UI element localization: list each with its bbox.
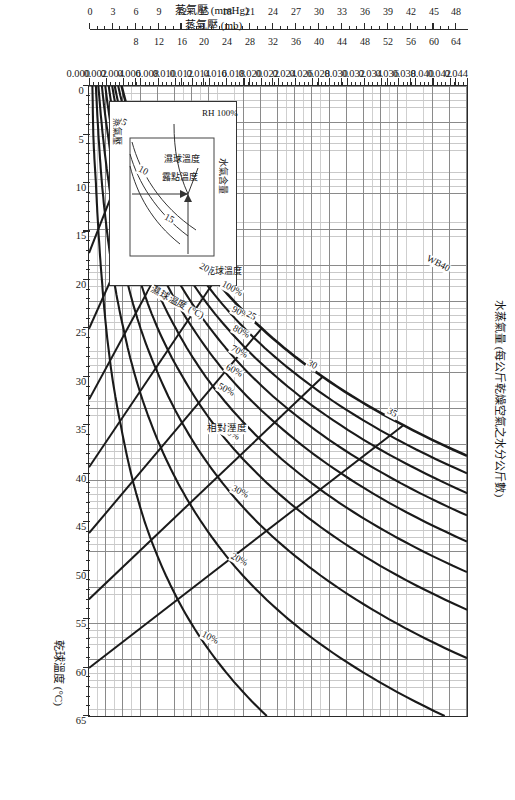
- dry-bulb-minor-tick: [87, 686, 91, 687]
- vapor-pressure-mmhg-minor-tick: [379, 26, 380, 29]
- vapor-pressure-mmhg-label-15: 15: [200, 6, 210, 17]
- humidity-ratio-minor-tick: [342, 82, 343, 86]
- vapor-pressure-mb-tick: [433, 78, 434, 85]
- dry-bulb-minor-tick: [87, 356, 91, 357]
- dry-bulb-minor-tick: [87, 492, 91, 493]
- vapor-pressure-mb-label-28: 28: [245, 36, 255, 47]
- vapor-pressure-mmhg-minor-tick: [257, 26, 258, 29]
- vapor-pressure-mb-label-20: 20: [200, 36, 210, 47]
- humidity-ratio-minor-tick: [446, 82, 447, 86]
- vapor-pressure-mb-label-36: 36: [291, 36, 301, 47]
- dry-bulb-minor-tick: [87, 434, 91, 435]
- humidity-ratio-tick: [278, 78, 279, 85]
- humidity-ratio-minor-tick: [300, 82, 301, 86]
- vapor-pressure-mb-tick: [295, 78, 296, 85]
- dry-bulb-minor-tick: [87, 502, 91, 503]
- humidity-ratio-tick: [467, 78, 468, 85]
- vapor-pressure-mb-tick: [158, 78, 159, 85]
- vapor-pressure-mmhg-label-33: 33: [337, 6, 347, 17]
- vapor-pressure-mmhg-minor-tick: [349, 26, 350, 29]
- vapor-pressure-mmhg-minor-tick: [395, 26, 396, 29]
- vapor-pressure-mmhg-minor-tick: [356, 26, 357, 29]
- vapor-pressure-mb-label-60: 60: [429, 36, 439, 47]
- vapor-pressure-mb-label-8: 8: [133, 36, 138, 47]
- dry-bulb-tick: [83, 85, 90, 86]
- humidity-ratio-minor-tick: [214, 82, 215, 86]
- vapor-pressure-mb-tick: [364, 78, 365, 85]
- vapor-pressure-mb-tick: [249, 78, 250, 85]
- vapor-pressure-mmhg-minor-tick: [150, 26, 151, 29]
- humidity-ratio-minor-tick: [252, 82, 253, 86]
- humidity-ratio-minor-tick: [218, 82, 219, 86]
- vapor-pressure-mmhg-label-3: 3: [110, 6, 115, 17]
- humidity-ratio-minor-tick: [411, 82, 412, 86]
- dry-bulb-minor-tick: [87, 124, 91, 125]
- vapor-pressure-mb-label-16: 16: [177, 36, 187, 47]
- vapor-pressure-mmhg-minor-tick: [242, 26, 243, 29]
- dry-bulb-tick-label-10: 10: [76, 182, 87, 193]
- vapor-pressure-mb-label-12: 12: [154, 36, 164, 47]
- humidity-ratio-minor-tick: [424, 82, 425, 86]
- vapor-pressure-mmhg-label-24: 24: [268, 6, 278, 17]
- dry-bulb-minor-tick: [87, 608, 91, 609]
- vapor-pressure-mb-tick: [387, 78, 388, 85]
- vapor-pressure-mb-tick: [181, 78, 182, 85]
- dry-bulb-minor-tick: [87, 163, 91, 164]
- vapor-pressure-mmhg-minor-tick: [288, 26, 289, 29]
- humidity-ratio-minor-tick: [355, 82, 356, 86]
- vapor-pressure-mmhg-label-6: 6: [133, 6, 138, 17]
- dry-bulb-minor-tick: [87, 463, 91, 464]
- humidity-ratio-minor-tick: [274, 82, 275, 86]
- humidity-ratio-minor-tick: [351, 82, 352, 86]
- humidity-ratio-tick: [89, 78, 90, 85]
- humidity-ratio-minor-tick: [360, 82, 361, 86]
- dry-bulb-minor-tick: [87, 366, 91, 367]
- humidity-ratio-minor-tick: [282, 82, 283, 86]
- humidity-ratio-tick: [209, 78, 210, 85]
- vapor-pressure-mmhg-minor-tick: [372, 26, 373, 29]
- humidity-ratio-minor-tick: [269, 82, 270, 86]
- humidity-ratio-minor-tick: [321, 82, 322, 86]
- dry-bulb-minor-tick: [87, 453, 91, 454]
- humidity-ratio-minor-tick: [458, 82, 459, 86]
- vapor-pressure-mmhg-minor-tick: [120, 26, 121, 29]
- vapor-pressure-mmhg-minor-tick: [440, 26, 441, 29]
- vapor-pressure-mmhg-minor-tick: [104, 26, 105, 29]
- humidity-ratio-minor-tick: [334, 82, 335, 86]
- dry-bulb-minor-tick: [87, 579, 91, 580]
- vapor-pressure-mmhg-minor-tick: [417, 26, 418, 29]
- dry-bulb-minor-tick: [87, 240, 91, 241]
- humidity-ratio-minor-tick: [394, 82, 395, 86]
- dry-bulb-minor-tick: [87, 347, 91, 348]
- dry-bulb-tick-label-15: 15: [76, 230, 87, 241]
- dry-bulb-tick-label-55: 55: [76, 618, 87, 629]
- vapor-pressure-mb-tick: [341, 78, 342, 85]
- humidity-ratio-minor-tick: [428, 82, 429, 86]
- humidity-ratio-minor-tick: [368, 82, 369, 86]
- inset-explanatory-diagram: 水氣含量 RH 100% 濕球溫度 露點溫度 乾球溫度 蒸氣壓: [109, 101, 237, 286]
- vapor-pressure-mmhg-minor-tick: [219, 26, 220, 29]
- dry-bulb-minor-tick: [87, 628, 91, 629]
- humidity-ratio-minor-tick: [338, 82, 339, 86]
- humidity-ratio-minor-tick: [145, 82, 146, 86]
- vapor-pressure-mmhg-minor-tick: [188, 26, 189, 29]
- vapor-pressure-mmhg-label-39: 39: [383, 6, 393, 17]
- humidity-ratio-minor-tick: [235, 82, 236, 86]
- humidity-ratio-minor-tick: [441, 82, 442, 86]
- dry-bulb-minor-tick: [87, 337, 91, 338]
- vapor-pressure-mb-label-48: 48: [360, 36, 370, 47]
- vapor-pressure-mmhg-label-36: 36: [360, 6, 370, 17]
- dry-bulb-minor-tick: [87, 395, 91, 396]
- humidity-ratio-minor-tick: [184, 82, 185, 86]
- vapor-pressure-mmhg-minor-tick: [97, 26, 98, 29]
- inset-label-moisture-content: 水氣含量: [217, 158, 230, 194]
- dry-bulb-minor-tick: [87, 512, 91, 513]
- dry-bulb-minor-tick: [87, 153, 91, 154]
- vapor-pressure-mmhg-minor-tick: [311, 26, 312, 29]
- vapor-pressure-mmhg-minor-tick: [165, 26, 166, 29]
- humidity-ratio-minor-tick: [291, 82, 292, 86]
- humidity-ratio-minor-tick: [407, 82, 408, 86]
- dry-bulb-minor-tick: [87, 104, 91, 105]
- relative-humidity-family-label: 相對溼度: [207, 424, 249, 434]
- rotated-figure-wrapper: 乾球溫度 (°C) 水蒸氣量 (每公斤乾燥空氣之水分公斤數) 蒸氣壓 (mb) …: [0, 0, 515, 800]
